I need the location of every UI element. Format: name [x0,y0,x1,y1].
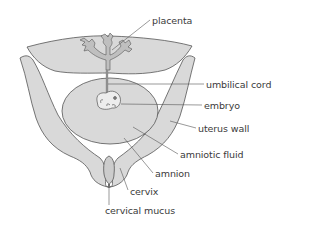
label-placenta: placenta [152,16,192,26]
label-amnion: amnion [155,169,190,179]
embryo-figure [97,91,121,109]
label-amniotic-fluid: amniotic fluid [180,150,243,160]
label-uterus-wall: uterus wall [198,124,249,134]
label-embryo: embryo [204,101,240,111]
label-cervix: cervix [130,187,158,197]
amniotic-sac [62,78,158,144]
label-cervical-mucus: cervical mucus [105,206,175,216]
label-umbilical-cord: umbilical cord [206,80,271,90]
